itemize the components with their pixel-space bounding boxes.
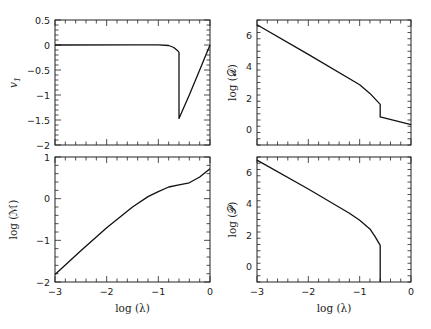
y-tick-label: 6 <box>246 167 252 178</box>
y-tick-label: 4 <box>246 198 252 209</box>
data-line <box>257 25 411 125</box>
x-tick-label: −1 <box>151 286 165 297</box>
panel-logD: 0246log (𝒟) <box>226 20 411 145</box>
plot-frame <box>55 157 210 282</box>
x-tick-label: −3 <box>48 286 62 297</box>
y-tick-label: 2 <box>246 93 252 104</box>
x-axis-label: log (λ) <box>115 302 150 314</box>
figure: 0.50−0.5−1−1.5−2v10246log (𝒟)10−1−2−3−2−… <box>0 0 431 329</box>
y-tick-label: 0 <box>246 124 252 135</box>
panel-logP: 0246−3−2−10log (λ)log (𝒫) <box>226 157 414 314</box>
y-tick-label: 0 <box>44 193 50 204</box>
x-tick-label: 0 <box>408 286 414 297</box>
y-axis-label: log (ℳ) <box>7 200 19 240</box>
y-tick-label: −1.5 <box>27 115 50 126</box>
panel-v1: 0.50−0.5−1−1.5−2v1 <box>7 15 210 151</box>
plot-frame <box>55 20 210 145</box>
y-tick-label: 4 <box>246 61 252 72</box>
y-axis-label: log (𝒟) <box>226 64 238 101</box>
x-tick-label: −2 <box>100 286 114 297</box>
y-axis-label: v1 <box>7 77 22 88</box>
x-tick-label: −3 <box>250 286 264 297</box>
x-tick-label: −2 <box>301 286 315 297</box>
y-tick-label: 2 <box>246 230 252 241</box>
y-tick-label: −0.5 <box>27 65 50 76</box>
x-axis-label: log (λ) <box>317 302 352 314</box>
plot-frame <box>257 157 411 282</box>
data-line <box>55 45 210 119</box>
panel-logM: 10−1−2−3−2−10log (λ)log (ℳ) <box>7 152 213 315</box>
y-tick-label: 0 <box>44 40 50 51</box>
y-tick-label: 1 <box>44 152 50 163</box>
y-tick-label: 0.5 <box>35 15 50 26</box>
data-line <box>55 169 210 275</box>
y-tick-label: 0 <box>246 261 252 272</box>
y-tick-label: −1 <box>36 235 50 246</box>
y-tick-label: 6 <box>246 30 252 41</box>
x-tick-label: −1 <box>353 286 367 297</box>
y-tick-label: −1 <box>36 90 50 101</box>
y-tick-label: −2 <box>36 140 50 151</box>
x-tick-label: 0 <box>207 286 213 297</box>
data-line <box>257 160 380 282</box>
y-axis-label: log (𝒫) <box>226 202 238 238</box>
